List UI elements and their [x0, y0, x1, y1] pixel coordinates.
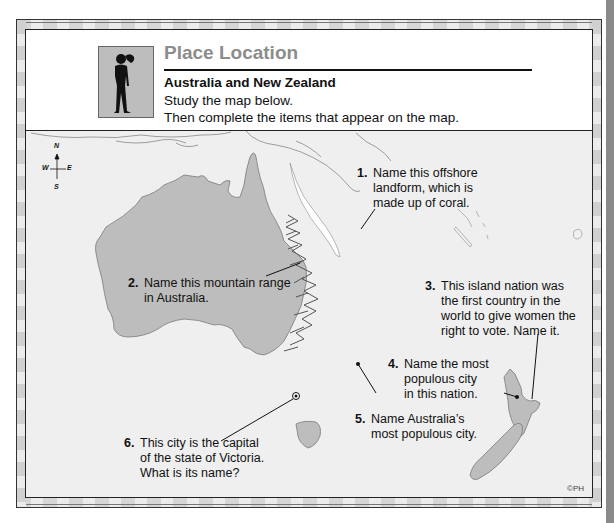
map-area: N W E S 1.Name this offshore landform, w…	[26, 131, 592, 498]
person-looking-icon	[98, 46, 154, 118]
tasmania	[296, 421, 321, 448]
question-3: 3.This island nation was the first count…	[425, 279, 576, 339]
compass-east-label: E	[67, 164, 72, 171]
question-6: 6.This city is the capital of the state …	[124, 436, 264, 481]
compass-rose	[50, 154, 66, 179]
compass-west-label: W	[42, 164, 49, 171]
australia-landmass	[96, 153, 307, 355]
page-subtitle: Australia and New Zealand	[164, 75, 336, 90]
worksheet-header: Place Location Australia and New Zealand…	[26, 30, 592, 131]
page-title: Place Location	[164, 42, 298, 64]
copyright-credit: ©PH	[567, 484, 584, 493]
question-1: 1.Name this offshore landform, which is …	[357, 166, 478, 211]
compass-south-label: S	[54, 183, 59, 190]
instruction-line-2: Then complete the items that appear on t…	[164, 110, 459, 125]
instruction-line-1: Study the map below.	[164, 93, 293, 108]
frame-right-border	[592, 20, 601, 507]
question-4: 4.Name the most populous city in this na…	[388, 357, 489, 402]
pacific-islands	[454, 209, 582, 247]
page-edge-strip	[606, 0, 614, 523]
question-5: 5.Name Australia’s most populous city.	[355, 412, 477, 442]
new-zealand-south-island	[470, 423, 523, 479]
title-divider	[164, 69, 532, 71]
compass-north-label: N	[54, 142, 59, 149]
worksheet-panel: Place Location Australia and New Zealand…	[25, 29, 593, 498]
question-2: 2.Name this mountain range in Australia.	[128, 276, 291, 306]
